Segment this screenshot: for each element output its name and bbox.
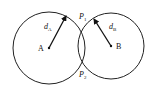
radius-label-a: dA — [44, 22, 52, 32]
radius-label-b: dB — [109, 22, 117, 32]
center-label-a: A — [38, 44, 44, 53]
intersection-label-p1: P1 — [78, 12, 87, 22]
intersection-label-p2: P2 — [78, 70, 87, 80]
radius-arrow-a — [49, 16, 66, 48]
diagram-canvas: A B dA dB P1 P2 — [0, 0, 153, 89]
center-label-b: B — [116, 42, 121, 51]
